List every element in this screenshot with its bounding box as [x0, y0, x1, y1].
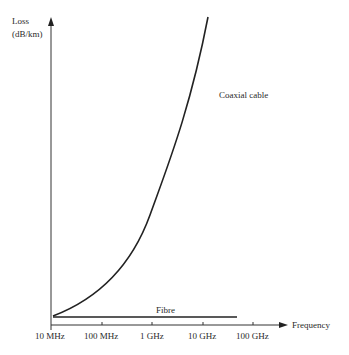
- coax-curve-label: Coaxial cable: [219, 90, 268, 101]
- tick-label-1ghz: 1 GHz: [140, 331, 164, 342]
- fibre-line-label: Fibre: [156, 305, 175, 316]
- x-axis-label: Frequency: [292, 320, 330, 331]
- coax-series-curve: [53, 17, 208, 316]
- tick-label-10mhz: 10 MHz: [35, 331, 65, 342]
- tick-label-10ghz: 10 GHz: [188, 331, 216, 342]
- y-axis-label-line2: (dB/km): [12, 29, 43, 40]
- x-axis-arrow-icon: [279, 322, 288, 328]
- chart-canvas: [0, 0, 349, 355]
- tick-label-100ghz: 100 GHz: [236, 331, 269, 342]
- y-axis-label-line1: Loss: [12, 16, 29, 27]
- y-axis-arrow-icon: [48, 17, 54, 26]
- tick-label-100mhz: 100 MHz: [84, 331, 118, 342]
